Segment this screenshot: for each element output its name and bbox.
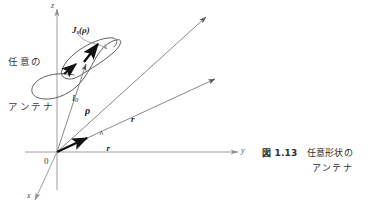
figure-container: z y x 0 任意の アンテナ Js(ρ) I0 ρ ^r r 図 1.13任… (0, 0, 371, 215)
surface-current-argument: (ρ) (79, 25, 90, 35)
r-vector-label: r (131, 115, 135, 124)
origin-label: 0 (44, 157, 49, 166)
r-hat-vector-label: ^r (84, 126, 110, 171)
surface-current-label: Js(ρ) (63, 17, 90, 45)
antenna-note-line-1: 任意の (8, 54, 54, 69)
x-axis-label: x (27, 192, 31, 200)
r-hat-circumflex: ^ (99, 131, 104, 139)
rho-vector-label: ρ (85, 106, 90, 116)
caption-line-1: 図 1.13任意形状の (262, 146, 353, 161)
feed-current-label: I0 (63, 85, 78, 113)
r-hat-vector (57, 138, 87, 152)
surface-current-arrow (84, 44, 98, 62)
antenna-note: 任意の アンテナ (8, 24, 54, 144)
caption-number: 図 1.13 (262, 148, 298, 158)
r-hat-symbol: r (107, 143, 111, 153)
antenna-geometry-diagram (0, 0, 371, 215)
antenna-note-line-2: アンテナ (8, 99, 54, 114)
figure-caption: 図 1.13任意形状の アンテナ (262, 146, 353, 176)
caption-line-2: アンテナ (312, 161, 353, 176)
feed-current-arrow (64, 64, 76, 74)
z-axis-label: z (51, 2, 54, 10)
feed-current-subscript: 0 (75, 96, 78, 103)
y-axis-label: y (241, 147, 245, 155)
caption-text-1: 任意形状の (307, 148, 354, 158)
